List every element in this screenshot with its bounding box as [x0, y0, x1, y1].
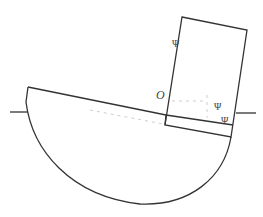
hull-outline — [26, 87, 231, 204]
psi-lower-label: Ψ — [221, 115, 229, 126]
superstructure-rect — [165, 17, 247, 137]
psi-mast-label: Ψ — [172, 38, 180, 49]
floating-body-diagram: O Ψ Ψ Ψ — [0, 0, 263, 217]
psi-upper-label: Ψ — [214, 101, 222, 112]
origin-label: O — [156, 88, 165, 102]
hull-deck — [28, 87, 166, 115]
